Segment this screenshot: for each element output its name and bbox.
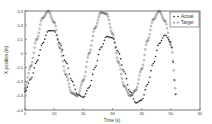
x-tick-label: 20 bbox=[81, 111, 86, 116]
y-tick-label: -0.4 bbox=[16, 108, 24, 113]
y-tick-label: -0.3 bbox=[16, 93, 24, 98]
x-tick-label: 0 bbox=[24, 111, 27, 116]
x-tick-label: 40 bbox=[139, 111, 144, 116]
x-tick-label: 10 bbox=[52, 111, 57, 116]
x-axis-label: Time (s) bbox=[104, 118, 121, 123]
chart: 0.30.20.10-0.1-0.2-0.3-0.4 0102030405060… bbox=[0, 0, 212, 124]
x-tick-label: 30 bbox=[110, 111, 115, 116]
y-tick-label: 0.2 bbox=[17, 23, 23, 28]
y-tick-label: -0.1 bbox=[16, 65, 24, 70]
x-tick-label: 60 bbox=[198, 111, 203, 116]
y-tick-label: 0.1 bbox=[17, 37, 23, 42]
svg-text:Target: Target bbox=[181, 20, 194, 25]
y-tick-label: -0.2 bbox=[16, 79, 24, 84]
y-tick-label: 0 bbox=[21, 51, 24, 56]
legend: Actual Target bbox=[170, 12, 199, 27]
x-tick-label: 50 bbox=[169, 111, 174, 116]
y-tick-label: 0.3 bbox=[17, 9, 23, 14]
svg-text:Actual: Actual bbox=[181, 14, 194, 19]
y-axis-label: X position (m) bbox=[4, 46, 9, 74]
